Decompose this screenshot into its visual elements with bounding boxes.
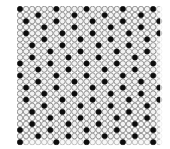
pattern-stage: Halftone dot lattice pattern bbox=[0, 0, 170, 149]
dot-pattern-graphic bbox=[0, 0, 170, 149]
